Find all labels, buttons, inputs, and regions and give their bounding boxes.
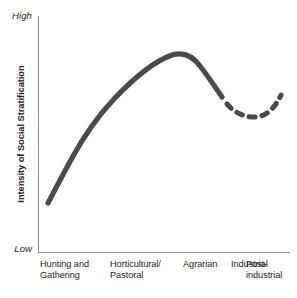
x-tick-label-post-industrial: Post- industrial	[246, 259, 282, 282]
x-tick-label-agrarian: Agrarian	[183, 259, 217, 270]
plot-area	[0, 0, 297, 298]
x-tick-label-hunting-gathering: Hunting and Gathering	[40, 259, 89, 282]
social-stratification-chart: High Low Intensity of Social Stratificat…	[0, 0, 297, 298]
x-tick-label-horticultural-pastoral: Horticultural/ Pastoral	[110, 259, 161, 282]
observed-trend-line	[48, 54, 222, 203]
projected-trend-line	[227, 95, 281, 117]
x-axis-labels: Hunting and Gathering Horticultural/ Pas…	[0, 259, 297, 293]
